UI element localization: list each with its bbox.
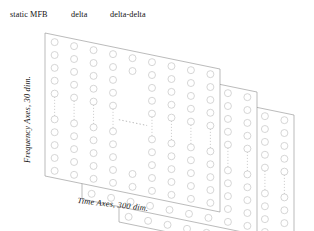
figure-canvas: static MFB delta delta-delta Frequency A… <box>0 0 314 231</box>
label-frequency-axis: Frequency Axes, 30 dim. <box>23 76 32 163</box>
planes-artwork <box>0 0 314 231</box>
plane-static-mfb <box>45 33 220 212</box>
plane-outline <box>45 33 220 212</box>
